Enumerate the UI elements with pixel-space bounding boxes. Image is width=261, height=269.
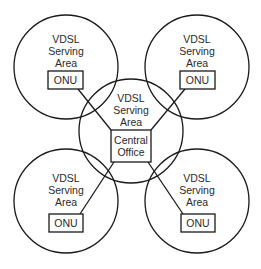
area-label-line: Serving xyxy=(179,45,215,57)
area-label-line: Serving xyxy=(48,184,84,196)
area-label-line: Area xyxy=(55,196,77,208)
area-label-line: VDSL xyxy=(183,33,211,45)
onu-label: ONU xyxy=(186,74,209,86)
onu-label: ONU xyxy=(54,217,77,229)
area-label-line: VDSL xyxy=(117,92,145,104)
central-office-label-line: Central xyxy=(114,134,148,146)
serving-area-bottom-left: VDSL Serving Area ONU xyxy=(48,172,84,232)
area-label-line: VDSL xyxy=(52,172,80,184)
serving-area-top-right: VDSL Serving Area ONU xyxy=(179,33,215,89)
central-office-label-line: Office xyxy=(117,146,144,158)
area-label-line: Area xyxy=(55,57,77,69)
area-label-line: Area xyxy=(120,116,142,128)
onu-label: ONU xyxy=(54,74,77,86)
area-label-line: Serving xyxy=(179,184,215,196)
serving-area-bottom-right: VDSL Serving Area ONU xyxy=(179,172,215,232)
area-label-line: VDSL xyxy=(183,172,211,184)
area-label-line: Serving xyxy=(113,104,149,116)
area-label-line: Area xyxy=(186,57,208,69)
area-label-line: VDSL xyxy=(52,33,80,45)
serving-area-top-left: VDSL Serving Area ONU xyxy=(48,33,84,89)
area-label-line: Serving xyxy=(48,45,84,57)
vdsl-topology-diagram: VDSL Serving Area ONU VDSL Serving Area … xyxy=(0,0,261,269)
area-label-line: Area xyxy=(186,196,208,208)
onu-label: ONU xyxy=(186,217,209,229)
serving-area-center: VDSL Serving Area Central Office xyxy=(111,92,151,162)
